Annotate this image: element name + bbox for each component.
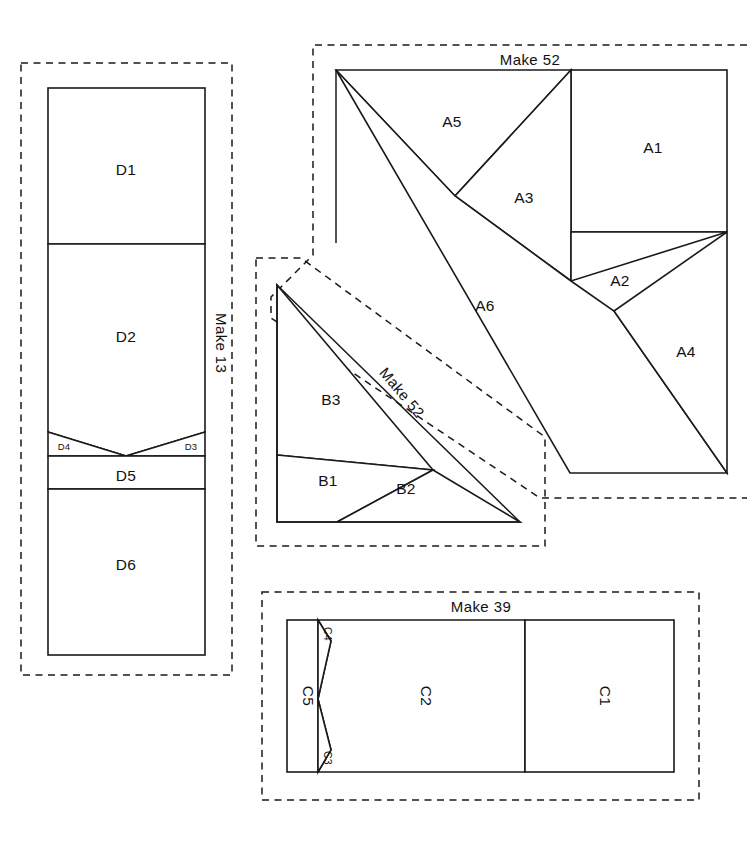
piece-a1-label: A1: [643, 139, 663, 156]
piece-a5-label: A5: [442, 113, 462, 130]
block-c-make-label: Make 39: [451, 598, 511, 615]
piece-a4-label: A4: [676, 343, 696, 360]
diagram-canvas: D1 D2 D4 D3 D5 D6 Make 13 A5: [0, 0, 747, 850]
piece-a2-label: A2: [610, 272, 630, 289]
piece-b2-label: B2: [396, 480, 416, 497]
piece-d3-label: D3: [185, 441, 198, 452]
piece-d5-label: D5: [116, 467, 136, 484]
piece-c3-label: C3: [322, 751, 334, 765]
piece-d2[interactable]: [48, 244, 205, 456]
block-d-group: D1 D2 D4 D3 D5 D6 Make 13: [21, 63, 232, 675]
piece-a3-label: A3: [514, 189, 534, 206]
piece-c4-label: C4: [322, 627, 334, 641]
block-d-make-label: Make 13: [213, 313, 230, 373]
block-a-make-label: Make 52: [500, 51, 560, 68]
piece-d4-label: D4: [58, 441, 71, 452]
piece-b3[interactable]: [277, 285, 433, 470]
block-c-group: C5 C2 C4 C3 C1 Make 39: [262, 592, 699, 800]
piece-c1-label: C1: [597, 686, 614, 706]
piece-c5-label: C5: [300, 686, 317, 706]
piece-d1-label: D1: [116, 161, 136, 178]
piece-d2-label: D2: [116, 328, 136, 345]
piece-a6-label: A6: [475, 297, 495, 314]
piece-b3-label: B3: [321, 391, 341, 408]
piece-b1-label: B1: [318, 472, 338, 489]
pattern-svg: D1 D2 D4 D3 D5 D6 Make 13 A5: [0, 0, 747, 850]
piece-d6-label: D6: [116, 556, 136, 573]
piece-c2-label: C2: [418, 686, 435, 706]
